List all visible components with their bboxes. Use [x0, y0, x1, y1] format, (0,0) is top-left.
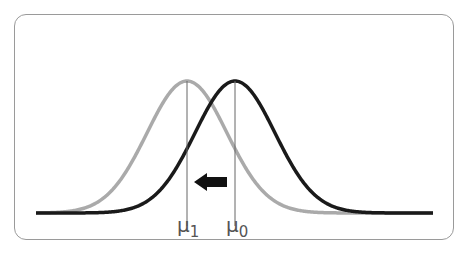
- mu0-symbol: μ: [226, 213, 239, 237]
- mu1-subscript: 1: [190, 223, 200, 241]
- mu0-subscript: 0: [239, 223, 249, 241]
- left-arrow-icon: [194, 173, 227, 191]
- mu1-label: μ1: [177, 215, 199, 240]
- mu0-label: μ0: [226, 215, 248, 240]
- mu1-symbol: μ: [177, 213, 190, 237]
